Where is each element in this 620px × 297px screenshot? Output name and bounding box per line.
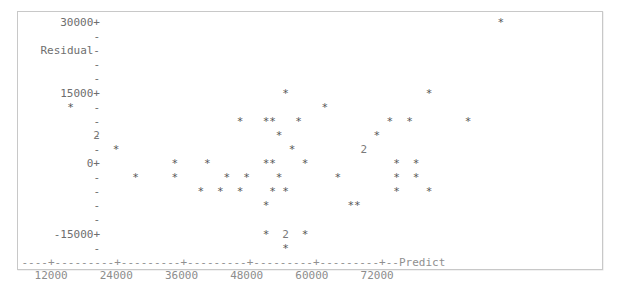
x-axis-tick-label: 36000 (165, 269, 198, 282)
data-point-marker: * (387, 115, 394, 128)
data-point-marker: * (269, 115, 276, 128)
data-point-marker: * (269, 185, 276, 198)
data-point-marker: * (113, 143, 120, 156)
data-point-marker: * (263, 199, 270, 212)
y-axis-tick-label: - (0, 30, 100, 43)
data-point-marker: * (263, 228, 270, 241)
data-point-overlap-count: 2 (282, 228, 289, 241)
y-axis-tick-label: -15000+ (0, 228, 100, 241)
data-point-marker: * (67, 101, 74, 114)
data-point-marker: * (413, 157, 420, 170)
y-axis-tick-label: - (0, 185, 100, 198)
data-point-marker: * (243, 171, 250, 184)
data-point-marker: * (426, 185, 433, 198)
x-axis-tick-label: 12000 (35, 269, 68, 282)
data-point-marker: * (406, 115, 413, 128)
y-axis-tick-label: 30000+ (0, 16, 100, 29)
data-point-marker: * (171, 157, 178, 170)
data-point-marker: * (393, 171, 400, 184)
data-point-marker: * (393, 185, 400, 198)
data-point-marker: * (354, 199, 361, 212)
data-point-marker: * (497, 16, 504, 29)
data-point-marker: * (132, 171, 139, 184)
data-point-marker: * (198, 185, 205, 198)
data-point-marker: * (465, 115, 472, 128)
data-point-marker: * (426, 87, 433, 100)
data-point-marker: * (282, 185, 289, 198)
data-point-marker: * (269, 157, 276, 170)
x-axis-tick-label: 72000 (361, 269, 394, 282)
data-point-marker: * (224, 171, 231, 184)
y-axis-tick-label: - (0, 242, 100, 255)
y-axis-tick-label: - (0, 58, 100, 71)
y-axis-tick-label: - (0, 72, 100, 85)
data-point-overlap-count: 2 (93, 129, 100, 142)
y-axis-tick-label: - (0, 143, 100, 156)
data-point-marker: * (295, 115, 302, 128)
data-point-marker: * (413, 171, 420, 184)
data-point-marker: * (321, 101, 328, 114)
data-point-marker: * (237, 185, 244, 198)
y-axis-tick-label: 15000+ (0, 87, 100, 100)
ascii-scatter-plot: 30000+-Residual---15000+----0+-----15000… (0, 0, 620, 297)
y-axis-tick-label: - (0, 199, 100, 212)
x-axis-tick-label: 60000 (295, 269, 328, 282)
y-axis-tick-label: - (0, 213, 100, 226)
y-axis-tick-label: Residual- (0, 44, 100, 57)
data-point-marker: * (217, 185, 224, 198)
data-point-marker: * (237, 115, 244, 128)
y-axis-tick-label: - (0, 115, 100, 128)
x-axis-tick-label: 24000 (100, 269, 133, 282)
data-point-marker: * (204, 157, 211, 170)
data-point-marker: * (334, 171, 341, 184)
data-point-marker: * (276, 171, 283, 184)
x-axis-tick-label: 48000 (230, 269, 263, 282)
x-axis-line: ----+---------+---------+---------+-----… (22, 256, 446, 269)
data-point-marker: * (374, 129, 381, 142)
data-point-overlap-count: 2 (361, 143, 368, 156)
y-axis-tick-label: 0+ (0, 157, 100, 170)
data-point-marker: * (171, 171, 178, 184)
y-axis-tick-label: - (0, 171, 100, 184)
data-point-marker: * (282, 87, 289, 100)
data-point-marker: * (302, 228, 309, 241)
data-point-marker: * (393, 157, 400, 170)
data-point-marker: * (289, 143, 296, 156)
y-axis-tick-label: - (0, 129, 100, 142)
y-axis-tick-label: - (0, 101, 100, 114)
data-point-marker: * (282, 242, 289, 255)
data-point-marker: * (302, 157, 309, 170)
data-point-marker: * (276, 129, 283, 142)
